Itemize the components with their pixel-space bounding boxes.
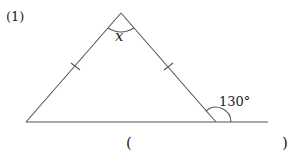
exterior-angle-label: 130° [219, 95, 250, 108]
problem-number: (1) [6, 10, 24, 23]
answer-close-paren: ) [282, 136, 288, 151]
unknown-angle-label: x [115, 29, 123, 44]
left-side [26, 13, 121, 122]
answer-open-paren: ( [126, 136, 132, 151]
right-side [121, 13, 216, 122]
triangle-figure [0, 0, 290, 161]
